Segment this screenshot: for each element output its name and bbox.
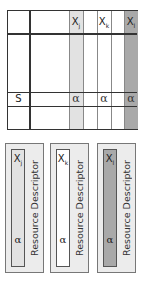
- descriptor-strip: Xj α: [11, 149, 25, 267]
- divider: [83, 11, 84, 129]
- resource-descriptor-card-xl: Xl α Resource Descriptor: [97, 143, 136, 273]
- descriptor-strip: Xl α: [103, 149, 117, 267]
- descriptor-strip: Xk α: [56, 149, 70, 267]
- resource-descriptor-card-xk: Xk α Resource Descriptor: [50, 143, 89, 273]
- header-xl: Xl: [124, 16, 138, 32]
- descriptor-alpha: α: [12, 234, 24, 245]
- row-label-s: S: [8, 93, 29, 105]
- cell-alpha-xk: α: [97, 93, 111, 105]
- divider: [29, 11, 31, 129]
- descriptor-symbol: Xk: [57, 153, 69, 166]
- divider: [111, 11, 112, 129]
- cell-alpha-xj: α: [69, 93, 83, 105]
- header-divider: [8, 33, 137, 35]
- descriptor-alpha: α: [57, 234, 69, 245]
- divider: [8, 106, 137, 107]
- header-xj: Xj: [69, 16, 83, 32]
- descriptor-symbol: Xl: [104, 153, 116, 166]
- allocation-matrix: Xj Xk Xl S α α α: [7, 10, 138, 130]
- descriptor-label: Resource Descriptor: [73, 146, 87, 270]
- descriptor-label: Resource Descriptor: [28, 146, 42, 270]
- resource-descriptor-card-xj: Xj α Resource Descriptor: [5, 143, 44, 273]
- header-xk: Xk: [97, 16, 111, 32]
- descriptor-alpha: α: [104, 234, 116, 245]
- cell-alpha-xl: α: [124, 93, 138, 105]
- descriptor-label: Resource Descriptor: [120, 146, 134, 270]
- descriptor-symbol: Xj: [12, 153, 24, 166]
